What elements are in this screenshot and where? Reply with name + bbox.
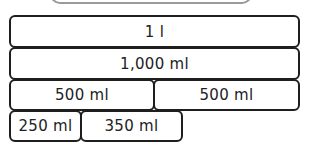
bar-label: 500 ml: [200, 86, 254, 104]
bar-350-ml: 350 ml: [80, 110, 183, 142]
bar-label: 250 ml: [19, 117, 73, 135]
bar-label: 500 ml: [55, 86, 109, 104]
bar-label: 1 l: [145, 23, 164, 41]
bar-500-ml-right: 500 ml: [153, 79, 300, 111]
bar-500-ml-left: 500 ml: [9, 79, 155, 111]
bar-label: 350 ml: [105, 117, 159, 135]
bar-1000-ml: 1,000 ml: [9, 47, 300, 80]
top-partial-box: [50, 0, 252, 4]
bar-label: 1,000 ml: [120, 55, 189, 73]
bar-1-liter: 1 l: [9, 15, 300, 48]
bar-250-ml: 250 ml: [9, 110, 82, 142]
